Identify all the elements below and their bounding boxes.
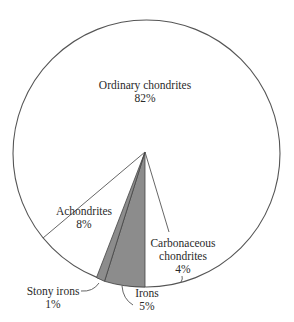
label-ordinary-pct: 82% [134,92,156,104]
label-irons-name: Irons [135,287,159,299]
arrow-irons [122,286,133,305]
pie-chart: Ordinary chondrites 82% Achondrites 8% C… [0,0,294,322]
label-irons-pct: 5% [139,300,155,312]
label-achondrites-pct: 8% [76,218,92,230]
label-ordinary-name: Ordinary chondrites [99,79,192,92]
label-achondrites-name: Achondrites [56,205,113,217]
label-carbonaceous-name2: chondrites [159,250,207,262]
label-carbonaceous-pct: 4% [175,263,191,275]
pie-outline [13,20,280,287]
label-stony-irons-name: Stony irons [27,285,80,298]
label-stony-irons-pct: 1% [45,298,61,310]
label-carbonaceous-name1: Carbonaceous [150,237,216,249]
arrow-stony-irons [81,283,99,291]
